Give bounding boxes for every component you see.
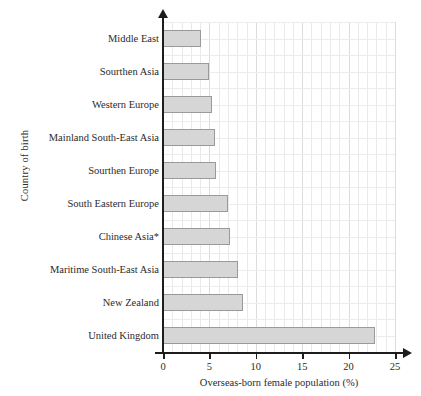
gridline-vertical (311, 22, 312, 352)
x-axis-line (155, 352, 405, 354)
plot-area (163, 22, 395, 352)
bar-chart: Country of birth 0510152025 Middle EastS… (0, 0, 421, 396)
category-label: Sourthen Asia (1, 66, 159, 77)
gridline-vertical (330, 22, 331, 352)
category-label: New Zealand (1, 297, 159, 308)
x-tick (256, 352, 258, 359)
x-tick (163, 352, 165, 359)
bar (163, 129, 215, 146)
category-label: Western Europe (1, 99, 159, 110)
bar (163, 294, 243, 311)
x-tick (395, 352, 397, 359)
x-tick-label: 20 (329, 361, 369, 372)
gridline-vertical (358, 22, 359, 352)
category-label: Middle East (1, 33, 159, 44)
gridline-vertical (376, 22, 377, 352)
x-tick-label: 15 (282, 361, 322, 372)
gridline-horizontal (163, 22, 395, 23)
category-label: South Eastern Europe (1, 198, 159, 209)
x-tick-label: 10 (236, 361, 276, 372)
x-axis-arrow-icon (403, 348, 412, 358)
gridline-horizontal (163, 88, 395, 89)
gridline-vertical (321, 22, 322, 352)
x-tick-label: 5 (189, 361, 229, 372)
bar (163, 228, 230, 245)
gridline-horizontal (163, 220, 395, 221)
gridline-horizontal (163, 154, 395, 155)
gridline-horizontal (163, 121, 395, 122)
gridline-vertical (395, 22, 396, 352)
bar (163, 195, 228, 212)
x-tick-label: 0 (143, 361, 183, 372)
gridline-horizontal (163, 55, 395, 56)
bar (163, 162, 216, 179)
bar (163, 63, 209, 80)
bar (163, 327, 375, 344)
category-label: Chinese Asia* (1, 231, 159, 242)
gridline-vertical (293, 22, 294, 352)
gridline-vertical (247, 22, 248, 352)
gridline-horizontal (163, 319, 395, 320)
gridline-horizontal (163, 253, 395, 254)
y-axis-line (162, 16, 164, 353)
gridline-vertical (256, 22, 257, 352)
gridline-vertical (367, 22, 368, 352)
bar (163, 96, 212, 113)
category-label: Mainland South-East Asia (1, 132, 159, 143)
gridline-horizontal (163, 286, 395, 287)
x-tick-label: 25 (375, 361, 415, 372)
bar (163, 261, 238, 278)
category-label: Sourthen Europe (1, 165, 159, 176)
gridline-vertical (302, 22, 303, 352)
gridline-vertical (284, 22, 285, 352)
category-label: Maritime South-East Asia (1, 264, 159, 275)
gridline-vertical (339, 22, 340, 352)
category-label: United Kingdom (1, 330, 159, 341)
bar (163, 30, 201, 47)
x-tick (349, 352, 351, 359)
x-tick (302, 352, 304, 359)
x-tick (209, 352, 211, 359)
gridline-vertical (349, 22, 350, 352)
gridline-vertical (386, 22, 387, 352)
y-axis-arrow-icon (158, 9, 168, 18)
x-axis-title: Overseas-born female population (%) (163, 377, 395, 388)
gridline-vertical (265, 22, 266, 352)
gridline-vertical (274, 22, 275, 352)
gridline-horizontal (163, 187, 395, 188)
